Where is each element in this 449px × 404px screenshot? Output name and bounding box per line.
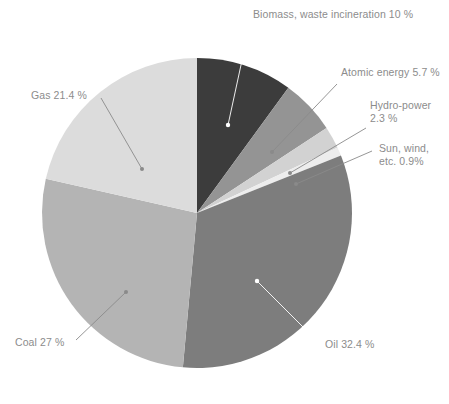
slice-label-gas: Gas 21.4 % (31, 89, 87, 102)
slice-label-hydro-power: Hydro-power 2.3 % (370, 99, 431, 125)
slice-label-sun-wind: Sun, wind, etc. 0.9% (379, 142, 429, 168)
leader-dot-coal (124, 290, 128, 294)
leader-dot-oil (255, 279, 259, 283)
leader-dot-sunwind (294, 182, 298, 186)
pie-slices (42, 58, 352, 368)
slice-label-coal: Coal 27 % (15, 336, 64, 349)
leader-dot-atomic (270, 150, 274, 154)
slice-label-atomic-energy: Atomic energy 5.7 % (341, 66, 440, 79)
leader-dot-hydro (288, 171, 292, 175)
slice-label-biomass: Biomass, waste incineration 10 % (253, 8, 413, 21)
chart-canvas: Biomass, waste incineration 10 % Atomic … (0, 0, 449, 404)
slice-label-oil: Oil 32.4 % (325, 338, 374, 351)
pie-chart-graphic (0, 0, 449, 404)
leader-dot-biomass (226, 123, 230, 127)
leader-dot-gas (140, 167, 144, 171)
